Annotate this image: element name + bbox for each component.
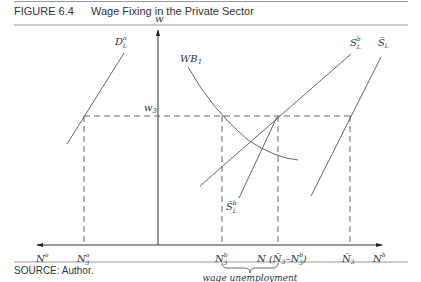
- supply-bar-label: S̄L: [378, 37, 389, 49]
- w3-label: w3: [144, 102, 158, 115]
- demand-curve: [67, 53, 124, 144]
- diagram-canvas: w w3 DoL WB1 SbL S̄L S̄bL No Nb No3 Nb3 …: [0, 0, 421, 282]
- figure-title: Wage Fixing in the Private Sector: [91, 5, 254, 17]
- demand-label: DoL: [114, 34, 127, 49]
- wage-bill-label: WB1: [180, 53, 202, 66]
- n3o-label: No3: [76, 251, 90, 266]
- figure: FIGURE 6.4 Wage Fixing in the Private Se…: [0, 0, 421, 282]
- figure-caption: FIGURE 6.4 Wage Fixing in the Private Se…: [14, 5, 254, 17]
- supply-bar-b-label: S̄bL: [226, 199, 237, 214]
- unemployment-brace: [222, 263, 278, 273]
- n3b-label: Nb3: [214, 251, 228, 266]
- supply-bar-b-curve: [239, 117, 277, 198]
- nbar3-label: N̄3: [341, 253, 355, 265]
- n-diff-label: N (N̄3–Nb3): [256, 251, 307, 266]
- supply-b-label: SbL: [350, 35, 361, 50]
- figure-number: FIGURE 6.4: [14, 5, 74, 17]
- supply-bar-curve: [311, 57, 381, 196]
- wage-bill-curve: [188, 67, 298, 160]
- source-note: SOURCE: Author.: [14, 265, 93, 276]
- brace-label: wage unemployment: [203, 273, 298, 282]
